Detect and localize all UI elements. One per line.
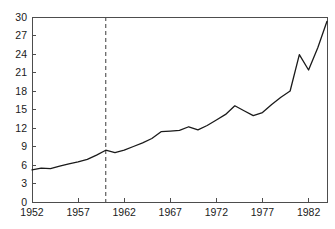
x-tick-label: 1952 [20, 206, 44, 218]
x-tick-label: 1977 [251, 206, 275, 218]
chart-container: 036912151821242730 195219571962196719721… [0, 0, 335, 229]
y-tick-label: 6 [21, 159, 27, 171]
line-chart: 036912151821242730 195219571962196719721… [0, 0, 335, 229]
x-tick-label: 1962 [113, 206, 137, 218]
y-tick-label: 15 [15, 103, 27, 115]
y-tick-label: 21 [15, 66, 27, 78]
series-line [32, 21, 327, 170]
y-tick-label: 18 [15, 85, 27, 97]
y-tick-label: 30 [15, 11, 27, 23]
axis-frame [32, 17, 327, 202]
x-tick-label: 1967 [159, 206, 183, 218]
y-tick-label: 9 [21, 140, 27, 152]
data-series-group [32, 21, 327, 170]
y-tick-label: 3 [21, 177, 27, 189]
x-axis-ticks: 1952195719621967197219771982 [20, 198, 320, 218]
y-tick-label: 27 [15, 29, 27, 41]
y-tick-label: 12 [15, 122, 27, 134]
x-tick-label: 1982 [297, 206, 321, 218]
y-axis-ticks: 036912151821242730 [15, 11, 36, 208]
x-tick-label: 1972 [205, 206, 229, 218]
y-tick-label: 24 [15, 48, 27, 60]
x-tick-label: 1957 [66, 206, 90, 218]
plot-frame [32, 17, 327, 202]
